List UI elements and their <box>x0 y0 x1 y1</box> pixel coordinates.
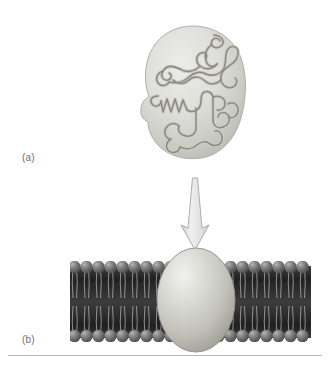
membrane-protein-figure: (a) (b) <box>0 0 330 367</box>
transition-arrow <box>181 178 209 250</box>
embedded-membrane-protein <box>157 248 235 352</box>
figure-canvas <box>0 0 330 367</box>
embedded-protein-body <box>157 248 235 352</box>
figure-divider-rule <box>8 355 322 356</box>
arrow-shape <box>181 178 209 250</box>
panel-a-label: (a) <box>22 152 35 163</box>
panel-b-label: (b) <box>22 334 35 345</box>
panel-a-protein-blob <box>141 26 246 159</box>
